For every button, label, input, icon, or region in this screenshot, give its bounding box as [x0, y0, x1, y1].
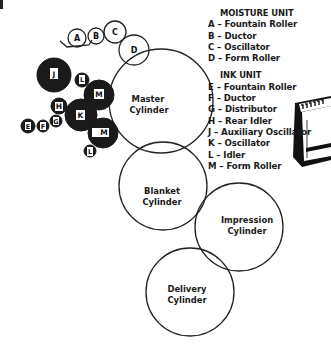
roller-label-m-top: M: [95, 90, 102, 99]
roller-label-c: C: [112, 28, 118, 37]
ink-unit-heading: INK UNIT: [220, 70, 311, 81]
legend-item-a: A – Fountain Roller: [208, 19, 311, 30]
legend-item-d: D – Form Roller: [208, 53, 311, 64]
blanket-cylinder-label-1: Blanket: [144, 186, 180, 196]
legend-item-h: H – Rear Idler: [208, 116, 311, 127]
roller-label-a: A: [74, 34, 81, 43]
impression-cylinder-label-1: Impression: [221, 215, 273, 225]
moisture-unit-heading: MOISTURE UNIT: [220, 8, 311, 19]
roller-label-b: B: [93, 32, 99, 41]
legend: MOISTURE UNIT A – Fountain Roller B – Du…: [208, 8, 311, 172]
legend-item-e: E – Fountain Roller: [208, 82, 311, 93]
roller-label-h: H: [56, 102, 62, 111]
impression-cylinder-label-2: Cylinder: [227, 226, 267, 236]
roller-label-l-bottom: L: [88, 148, 92, 156]
legend-item-j: J – Auxiliary Oscillator: [208, 127, 311, 138]
roller-label-e: E: [26, 123, 30, 131]
roller-label-f: F: [41, 123, 45, 131]
delivery-cylinder-label-2: Cylinder: [167, 295, 207, 305]
legend-item-g: G – Distributor: [208, 104, 311, 115]
roller-label-d: D: [131, 46, 138, 55]
master-cylinder-label-2: Cylinder: [129, 105, 169, 115]
legend-item-m: M – Form Roller: [208, 161, 311, 172]
legend-item-b: B – Ductor: [208, 31, 311, 42]
legend-item-l: L – Idler: [208, 150, 311, 161]
roller-label-j: J: [52, 70, 56, 79]
roller-label-g: G: [53, 118, 58, 126]
master-cylinder-label-1: Master: [132, 94, 166, 104]
legend-item-c: C – Oscillator: [208, 42, 311, 53]
roller-label-m-bottom: M: [100, 128, 107, 137]
delivery-cylinder-label-1: Delivery: [167, 284, 207, 294]
roller-label-l-top: L: [80, 76, 84, 84]
legend-item-f: F – Ductor: [208, 93, 311, 104]
blanket-cylinder-label-2: Cylinder: [142, 197, 182, 207]
legend-item-k: K – Oscillator: [208, 138, 311, 149]
